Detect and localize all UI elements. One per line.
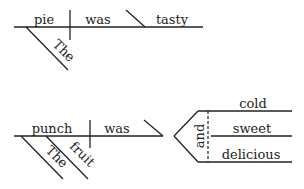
complement-divider — [144, 120, 163, 136]
diagram-2: punch was The fruit and cold sweet delic… — [14, 96, 292, 179]
verb-word: was — [104, 121, 130, 136]
verb-word: was — [85, 12, 111, 27]
diagram-1: pie was tasty The — [14, 10, 203, 70]
modifier-word: The — [50, 37, 78, 65]
sentence-diagrams: pie was tasty The punch was The fruit an… — [0, 0, 304, 189]
modifier-word-1: The — [43, 143, 71, 171]
modifier-word-2: fruit — [67, 139, 99, 171]
subject-word: pie — [34, 12, 54, 27]
complement-word: tasty — [156, 12, 189, 27]
complement-word-1: cold — [239, 96, 267, 111]
complement-word-2: sweet — [233, 121, 272, 136]
complement-word-3: delicious — [222, 147, 281, 162]
complement-divider — [126, 10, 145, 27]
conjunction-word: and — [192, 124, 207, 148]
subject-word: punch — [32, 121, 73, 136]
